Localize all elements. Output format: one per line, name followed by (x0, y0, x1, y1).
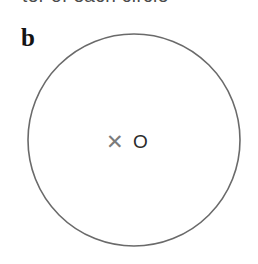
cross-marker-icon: ✕ (106, 131, 124, 152)
center-marker-group: ✕ O (106, 128, 176, 154)
circle-marker-icon: O (133, 132, 148, 151)
figure-panel-b: ter of each circle b ✕ O (0, 0, 258, 264)
